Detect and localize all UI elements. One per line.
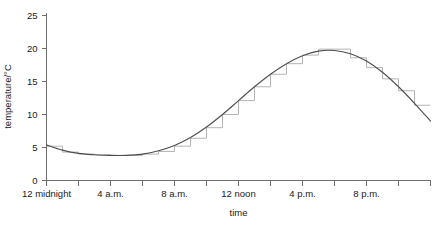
y-axis-tick-label: 5 xyxy=(32,142,37,153)
y-axis-tick-label: 0 xyxy=(32,175,37,186)
temperature-time-chart: 051015202512 midnight4 a.m.8 a.m.12 noon… xyxy=(0,0,438,229)
x-axis-tick-label: 8 p.m. xyxy=(353,188,379,199)
y-axis-tick-label: 20 xyxy=(27,43,38,54)
x-axis-tick-label: 8 a.m. xyxy=(161,188,187,199)
x-axis-tick-label: 4 p.m. xyxy=(289,188,315,199)
y-axis-tick-label: 15 xyxy=(27,76,38,87)
x-axis-tick-label: 12 noon xyxy=(221,188,255,199)
x-axis-tick-label: 4 a.m. xyxy=(97,188,123,199)
y-axis-tick-label: 25 xyxy=(27,10,38,21)
y-axis-tick-label: 10 xyxy=(27,109,38,120)
x-axis-title-text: time xyxy=(230,207,248,218)
chart-canvas: 051015202512 midnight4 a.m.8 a.m.12 noon… xyxy=(0,0,438,229)
y-axis-title-text: temperature/°C xyxy=(2,64,13,129)
x-axis-tick-label: 12 midnight xyxy=(22,188,71,199)
